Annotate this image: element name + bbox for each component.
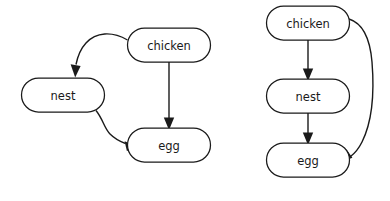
edge-path-chicken-egg-arc <box>349 19 373 157</box>
node-label-nest: nest <box>51 89 76 103</box>
edge-path-nest-egg <box>96 111 126 144</box>
edge-chicken-to-nest-left <box>71 34 128 78</box>
left-graph: chicken nest egg <box>22 28 211 162</box>
diagram-canvas: chicken nest egg <box>0 0 390 201</box>
arrow-head-chicken-nest <box>71 64 81 77</box>
node-chicken-left[interactable]: chicken <box>128 28 211 62</box>
node-chicken-right[interactable]: chicken <box>267 6 350 40</box>
edge-nest-to-egg-right <box>303 113 313 145</box>
node-nest-left[interactable]: nest <box>22 78 105 112</box>
dag-pair-svg: chicken nest egg <box>0 0 390 201</box>
node-label-chicken: chicken <box>147 39 191 53</box>
node-label-egg-right: egg <box>297 154 319 168</box>
right-graph: chicken nest egg <box>267 6 373 177</box>
edge-path-chicken-nest <box>76 34 128 65</box>
node-nest-right[interactable]: nest <box>267 79 350 113</box>
node-label-egg: egg <box>158 139 180 153</box>
node-egg-right[interactable]: egg <box>267 143 350 177</box>
node-label-chicken-right: chicken <box>286 17 330 31</box>
edge-chicken-to-nest-right <box>303 40 313 81</box>
node-label-nest-right: nest <box>296 90 321 104</box>
node-egg-left[interactable]: egg <box>128 128 211 162</box>
edge-chicken-to-egg-left <box>164 62 174 130</box>
